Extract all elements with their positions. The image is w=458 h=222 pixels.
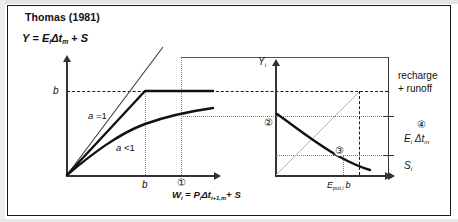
left-plot-y-axis — [66, 62, 68, 176]
label-a-upper: a — [88, 110, 93, 121]
annotation-recharge-line1: recharge — [398, 70, 437, 83]
right-plot-x-tick-sub: pot,i — [333, 185, 344, 191]
bottom-equation: Wi = PiΔti+1,m+ S — [172, 190, 241, 200]
annotation-tick-lower — [383, 155, 394, 156]
main-eq-lhs: Y — [22, 32, 29, 44]
right-plot-y-axis-label: Yi — [258, 56, 266, 67]
right-plot-y-axis-base: Y — [258, 56, 265, 67]
left-plot-y-tick-label-b: b — [53, 85, 59, 96]
scan-edge-bottom — [0, 219, 458, 222]
right-plot-x-axis — [275, 175, 385, 177]
bottom-eq-equals: = — [185, 189, 191, 200]
left-plot-x-axis-arrow — [214, 172, 221, 180]
left-plot-y-axis-arrow — [63, 55, 71, 62]
right-plot-lower-dotted-line — [276, 155, 388, 156]
annotation-recharge-runoff: recharge + runoff — [398, 70, 437, 95]
bottom-eq-plus: + — [226, 189, 232, 200]
main-eq-term1-sub: i — [49, 38, 51, 45]
left-plot-b-abscissa-guide — [145, 91, 146, 175]
left-plot-curve-label-a-equals-1: a =1 — [88, 110, 107, 121]
label-a-upper-value: =1 — [96, 110, 107, 121]
main-eq-delta-sub: m — [62, 38, 68, 45]
left-plot-curve-label-a-less-than-1: a <1 — [116, 142, 135, 153]
label-a-lower-value: <1 — [124, 142, 135, 153]
annotation-soil-storage: Si — [404, 160, 412, 173]
label-a-lower: a — [116, 142, 121, 153]
bottom-eq-delta: Δt — [201, 189, 211, 200]
b-level-connector-line — [166, 91, 388, 92]
right-plot-b-guide — [359, 91, 360, 175]
marker-4-circled: ④ — [416, 119, 427, 130]
marker-2-circled: ② — [263, 117, 274, 128]
marker-1-circled: ① — [176, 177, 187, 188]
right-plot-x-tick-suffix: b — [346, 180, 351, 190]
scan-edge-top — [0, 0, 458, 4]
right-plot-upper-dotted-line — [276, 116, 388, 117]
annotation-storage-base: S — [404, 160, 411, 171]
main-equation: Y = EiΔtm + S — [22, 33, 88, 44]
figure-container: Thomas (1981) Y = EiΔtm + S Wi = PiΔti+1… — [0, 0, 458, 222]
upper-connector-line — [181, 57, 388, 58]
annotation-evapotranspiration: Ei Δtm — [404, 133, 429, 146]
scan-edge-left — [0, 0, 5, 222]
main-eq-term2: S — [81, 32, 88, 44]
annotation-column-arrow — [388, 172, 395, 180]
right-plot-y-axis-sub: i — [265, 61, 266, 68]
left-plot-x-axis — [66, 175, 214, 177]
annotation-storage-sub: i — [411, 165, 412, 172]
bottom-eq-lhs-sub: i — [181, 195, 183, 201]
right-plot-y-axis-arrow — [272, 59, 280, 66]
annotation-evap-base: E — [404, 133, 411, 144]
annotation-evap-delta: Δt — [415, 133, 425, 144]
bottom-eq-lhs-base: W — [172, 189, 181, 200]
marker-3-circled: ③ — [334, 145, 345, 156]
main-eq-plus: + — [71, 32, 77, 44]
annotation-tick-upper — [383, 116, 394, 117]
annotation-evap-delta-sub: m — [424, 138, 429, 145]
right-plot-y-axis — [275, 66, 277, 176]
bottom-eq-delta-sub: i+1,m — [211, 195, 226, 201]
annotation-recharge-line2: + runoff — [398, 83, 437, 96]
main-eq-equals: = — [32, 32, 38, 44]
citation-title: Thomas (1981) — [25, 12, 100, 23]
right-plot-epot-guide — [343, 155, 344, 175]
bottom-eq-term1-base: P — [193, 189, 199, 200]
left-plot-b-level-line — [67, 91, 166, 92]
right-plot-x-tick-label-epot: Epot,ib — [327, 180, 351, 190]
bottom-eq-term2: S — [234, 189, 240, 200]
left-plot-x-tick-label-b: b — [142, 179, 148, 190]
annotation-evap-sub: i — [411, 138, 412, 145]
main-eq-delta: Δt — [51, 32, 62, 44]
